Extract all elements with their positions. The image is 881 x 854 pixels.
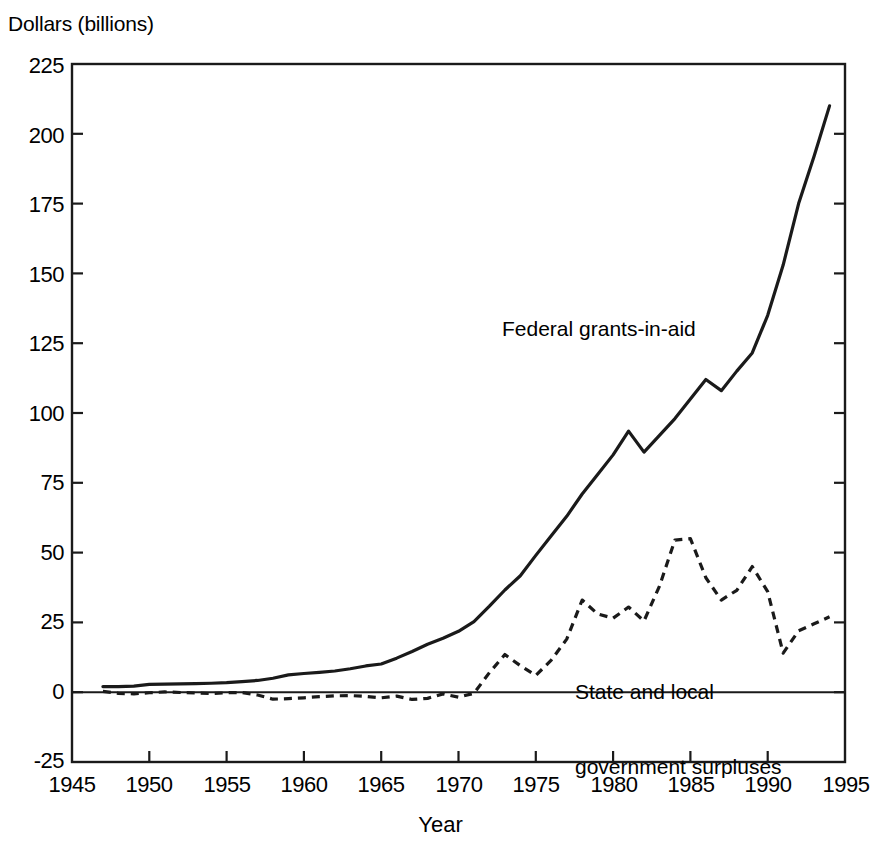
annotation-state-local-line2: government surpluses xyxy=(575,754,782,779)
x-axis-title: Year xyxy=(0,812,881,838)
chart-figure: Dollars (billions) 225 200 175 150 125 1… xyxy=(0,0,881,854)
annotation-state-local-surpluses: State and local government surpluses xyxy=(575,629,782,829)
annotation-state-local-line1: State and local xyxy=(575,679,782,704)
annotation-federal-grants: Federal grants-in-aid xyxy=(502,316,696,341)
annotation-federal-grants-text: Federal grants-in-aid xyxy=(502,317,696,340)
